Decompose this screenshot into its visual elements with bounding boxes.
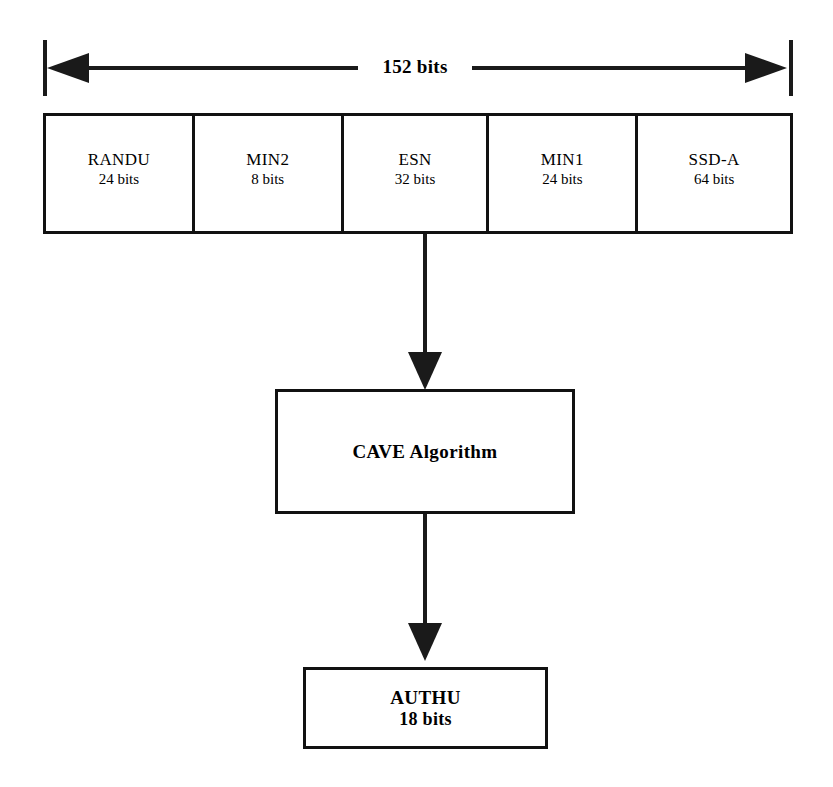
diagram-canvas: 152 bits RANDU 24 bits MIN2 8 bits ESN 3… — [0, 0, 833, 787]
field-name: ESN — [398, 149, 431, 170]
field-size: 24 bits — [99, 170, 139, 190]
field-cell-min2[interactable]: MIN2 8 bits — [195, 116, 344, 231]
field-name: RANDU — [88, 149, 150, 170]
arrow-left-icon — [47, 53, 89, 83]
field-cell-esn[interactable]: ESN 32 bits — [344, 116, 490, 231]
connector-stem — [423, 234, 427, 356]
field-name: SSD-A — [689, 149, 740, 170]
dimension-line-right — [472, 66, 745, 70]
arrow-right-icon — [745, 53, 787, 83]
field-cell-randu[interactable]: RANDU 24 bits — [46, 116, 195, 231]
input-field-strip: RANDU 24 bits MIN2 8 bits ESN 32 bits MI… — [43, 113, 793, 234]
dimension-tick-right — [789, 40, 793, 96]
dimension-line-left — [88, 66, 358, 70]
authu-size-label: 18 bits — [399, 709, 452, 730]
connector-stem — [423, 514, 427, 627]
authu-label: AUTHU — [390, 687, 461, 709]
cave-algorithm-label: CAVE Algorithm — [352, 441, 497, 463]
authu-output-box[interactable]: AUTHU 18 bits — [303, 667, 548, 749]
field-size: 64 bits — [694, 170, 734, 190]
arrow-down-icon — [408, 352, 442, 390]
field-size: 24 bits — [542, 170, 582, 190]
field-cell-ssd-a[interactable]: SSD-A 64 bits — [638, 116, 790, 231]
arrow-down-icon — [408, 623, 442, 661]
field-name: MIN1 — [541, 149, 584, 170]
field-cell-min1[interactable]: MIN1 24 bits — [489, 116, 638, 231]
dimension-label: 152 bits — [355, 56, 475, 78]
field-size: 8 bits — [251, 170, 284, 190]
field-size: 32 bits — [395, 170, 435, 190]
field-name: MIN2 — [246, 149, 289, 170]
cave-algorithm-box[interactable]: CAVE Algorithm — [275, 389, 575, 514]
